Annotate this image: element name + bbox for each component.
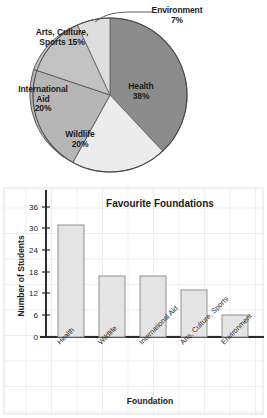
y-tick-6: 6 <box>34 311 39 320</box>
bar-chart-figure: 36 30 24 18 12 6 0 Favourite Foundations… <box>0 182 267 418</box>
bar-health <box>58 225 84 337</box>
pie-label-international-aid: International Aid 20% <box>8 85 78 114</box>
pie-label-health: Health 38% <box>119 82 163 101</box>
pie-label-wildlife: Wildlife 20% <box>55 130 105 149</box>
pie-label-arts-culture-sports: Arts, Culture, Sports 15% <box>29 28 95 47</box>
y-axis-title: Number of Students <box>16 235 26 316</box>
pie-label-environment: Environment 7% <box>138 6 216 25</box>
y-tick-24: 24 <box>29 246 38 255</box>
bar-chart-title: Favourite Foundations <box>106 198 214 209</box>
y-tick-12: 12 <box>29 289 38 298</box>
y-tick-30: 30 <box>29 224 38 233</box>
y-tick-36: 36 <box>29 203 38 212</box>
y-tick-0: 0 <box>34 333 39 342</box>
pie-chart-figure: Environment 7% Health 38% Wildlife 20% I… <box>0 0 267 182</box>
x-axis-title: Foundation <box>127 396 173 406</box>
bar-chart-svg: 36 30 24 18 12 6 0 Favourite Foundations… <box>0 182 267 418</box>
y-tick-18: 18 <box>29 268 38 277</box>
